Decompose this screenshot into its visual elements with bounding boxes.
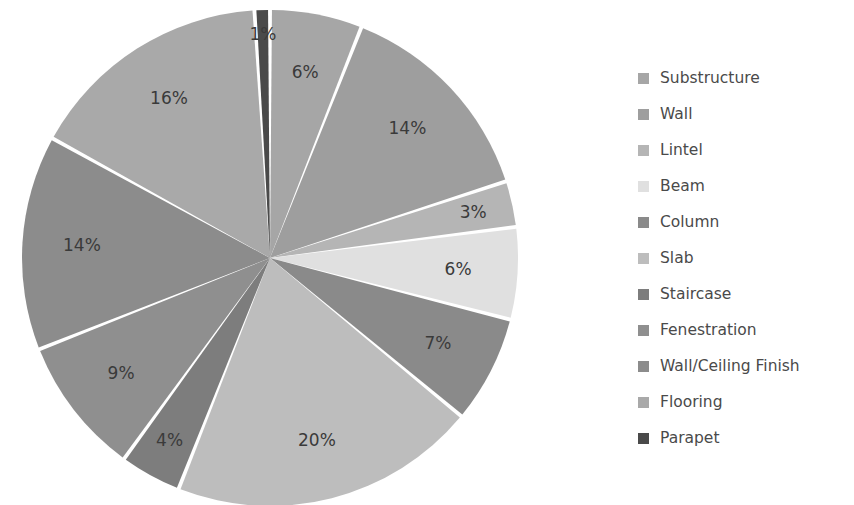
legend-item[interactable]: Staircase bbox=[638, 276, 854, 312]
pie-slice-value-label: 6% bbox=[292, 62, 319, 82]
pie-slice-value-label: 14% bbox=[389, 118, 427, 138]
legend-item-label: Lintel bbox=[660, 132, 703, 168]
legend-item[interactable]: Wall bbox=[638, 96, 854, 132]
legend-color-swatch-icon bbox=[638, 361, 649, 372]
pie-slice-value-label: 3% bbox=[460, 202, 487, 222]
pie-slice-value-label: 9% bbox=[108, 363, 135, 383]
legend-color-swatch-icon bbox=[638, 145, 649, 156]
legend-color-swatch-icon bbox=[638, 217, 649, 228]
legend-item[interactable]: Column bbox=[638, 204, 854, 240]
pie-slice-value-label: 1% bbox=[250, 24, 277, 44]
legend-color-swatch-icon bbox=[638, 433, 649, 444]
pie-slice-value-label: 6% bbox=[445, 259, 472, 279]
pie-slice-value-label: 16% bbox=[150, 88, 188, 108]
legend-color-swatch-icon bbox=[638, 253, 649, 264]
legend-item[interactable]: Slab bbox=[638, 240, 854, 276]
legend-color-swatch-icon bbox=[638, 289, 649, 300]
legend-item-label: Slab bbox=[660, 240, 693, 276]
pie-svg: 6%14%3%6%7%20%4%9%14%16%1% bbox=[0, 0, 600, 505]
legend-item[interactable]: Wall/Ceiling Finish bbox=[638, 348, 854, 384]
chart-legend: SubstructureWallLintelBeamColumnSlabStai… bbox=[638, 60, 854, 456]
legend-item-label: Wall bbox=[660, 96, 692, 132]
legend-item[interactable]: Substructure bbox=[638, 60, 854, 96]
legend-item[interactable]: Flooring bbox=[638, 384, 854, 420]
legend-item[interactable]: Beam bbox=[638, 168, 854, 204]
pie-slice-value-label: 14% bbox=[63, 235, 101, 255]
legend-item-label: Flooring bbox=[660, 384, 723, 420]
pie-chart-figure: 6%14%3%6%7%20%4%9%14%16%1% SubstructureW… bbox=[0, 0, 854, 505]
legend-color-swatch-icon bbox=[638, 73, 649, 84]
pie-plot-area: 6%14%3%6%7%20%4%9%14%16%1% bbox=[0, 0, 600, 505]
legend-item[interactable]: Lintel bbox=[638, 132, 854, 168]
pie-slices-group bbox=[22, 10, 518, 505]
legend-item-label: Beam bbox=[660, 168, 705, 204]
pie-slice-value-label: 4% bbox=[156, 430, 183, 450]
legend-item-label: Substructure bbox=[660, 60, 760, 96]
legend-item[interactable]: Parapet bbox=[638, 420, 854, 456]
legend-item-label: Fenestration bbox=[660, 312, 757, 348]
pie-slice-value-label: 7% bbox=[424, 333, 451, 353]
pie-slice-value-label: 20% bbox=[298, 430, 336, 450]
legend-item-label: Staircase bbox=[660, 276, 731, 312]
legend-color-swatch-icon bbox=[638, 181, 649, 192]
legend-item-label: Parapet bbox=[660, 420, 719, 456]
legend-item-label: Wall/Ceiling Finish bbox=[660, 348, 800, 384]
legend-color-swatch-icon bbox=[638, 397, 649, 408]
legend-color-swatch-icon bbox=[638, 325, 649, 336]
legend-item-label: Column bbox=[660, 204, 719, 240]
legend-color-swatch-icon bbox=[638, 109, 649, 120]
legend-item[interactable]: Fenestration bbox=[638, 312, 854, 348]
